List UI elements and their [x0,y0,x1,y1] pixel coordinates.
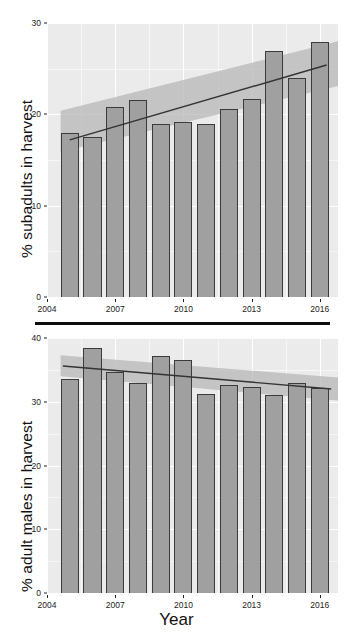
y-tick-mark [44,465,47,466]
y-tick-label: 0 [36,292,41,302]
y-tick-label: 10 [32,201,41,211]
y-tick-mark [44,338,47,339]
y-axis-title-subadults: % subadults in harvest [18,0,19,1]
x-tick-mark [320,299,321,302]
y-tick-mark [44,529,47,530]
chart-panel-subadults: % subadults in harvest 01020302004200720… [0,0,353,320]
y-tick-mark [44,205,47,206]
y-tick-mark [44,114,47,115]
x-tick-label: 2004 [38,304,57,314]
x-tick-mark [183,595,184,598]
x-tick-label: 2013 [242,600,261,610]
y-axis-title-adult-males: % adult males in harvest [18,320,19,321]
x-tick-mark [47,595,48,598]
x-axis-title: Year [0,610,353,630]
x-tick-label: 2004 [38,600,57,610]
x-tick-label: 2013 [242,304,261,314]
trend-line [47,338,338,593]
y-tick-label: 30 [32,397,41,407]
x-tick-mark [252,595,253,598]
plot-area-subadults [47,23,338,297]
x-tick-mark [115,299,116,302]
chart-panel-adult-males: % adult males in harvest 010203040200420… [0,320,353,636]
x-tick-mark [252,299,253,302]
x-tick-label: 2007 [106,600,125,610]
x-tick-label: 2010 [174,600,193,610]
y-tick-label: 30 [32,18,41,28]
y-tick-label: 10 [32,524,41,534]
plot-area-adult-males [47,338,338,593]
x-tick-label: 2010 [174,304,193,314]
y-tick-label: 40 [32,333,41,343]
y-tick-label: 0 [36,588,41,598]
x-tick-mark [183,299,184,302]
x-tick-mark [115,595,116,598]
x-tick-mark [47,299,48,302]
y-tick-label: 20 [32,461,41,471]
x-tick-label: 2007 [106,304,125,314]
y-tick-label: 20 [32,109,41,119]
y-tick-mark [44,593,47,594]
x-tick-label: 2016 [310,304,329,314]
figure-panel-group: % subadults in harvest 01020302004200720… [0,0,353,636]
y-tick-mark [44,23,47,24]
y-tick-mark [44,401,47,402]
trend-line [47,23,338,297]
x-tick-label: 2016 [310,600,329,610]
y-tick-mark [44,297,47,298]
x-tick-mark [320,595,321,598]
